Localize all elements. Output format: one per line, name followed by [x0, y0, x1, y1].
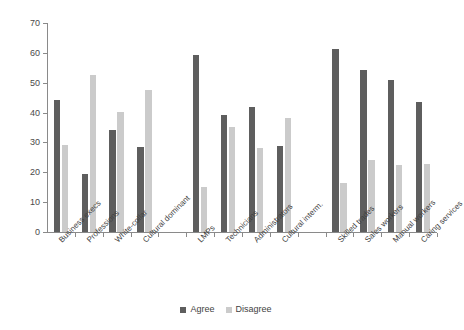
legend-label-agree: Agree [190, 305, 214, 314]
x-axis-tick [214, 233, 215, 237]
x-axis-tick [353, 233, 354, 237]
bar-disagree[interactable] [396, 165, 403, 232]
y-axis-tick-label: 30 [30, 138, 40, 147]
bar-disagree[interactable] [257, 148, 264, 232]
x-axis-tick [158, 233, 159, 237]
bar-agree[interactable] [54, 100, 61, 232]
x-axis-tick [131, 233, 132, 237]
disagree-swatch-icon [226, 307, 232, 313]
x-axis-tick [409, 233, 410, 237]
bar-disagree[interactable] [62, 145, 69, 232]
chart-legend: Agree Disagree [0, 305, 452, 314]
bar-agree[interactable] [193, 55, 200, 232]
x-axis-tick [270, 233, 271, 237]
legend-label-disagree: Disagree [236, 305, 272, 314]
x-axis-tick [298, 233, 299, 237]
y-axis-tick-label: 50 [30, 78, 40, 87]
plot-area [47, 23, 437, 232]
legend-item-disagree[interactable]: Disagree [226, 305, 272, 314]
y-axis-tick-label: 60 [30, 48, 40, 57]
x-axis-tick [186, 233, 187, 237]
y-axis-tick-label: 40 [30, 108, 40, 117]
x-axis-tick [437, 233, 438, 237]
y-axis: 010203040506070 [0, 23, 47, 232]
bar-agree[interactable] [332, 49, 339, 232]
legend-item-agree[interactable]: Agree [180, 305, 214, 314]
bar-disagree[interactable] [368, 160, 375, 232]
bar-disagree[interactable] [229, 127, 236, 232]
bar-disagree[interactable] [201, 187, 208, 232]
x-axis-tick [75, 233, 76, 237]
bar-agree[interactable] [221, 115, 228, 232]
x-axis-tick [103, 233, 104, 237]
y-axis-tick-label: 10 [30, 198, 40, 207]
x-axis-tick [381, 233, 382, 237]
bar-disagree[interactable] [340, 183, 347, 232]
x-axis-tick [326, 233, 327, 237]
y-axis-tick-label: 20 [30, 168, 40, 177]
y-axis-tick-label: 0 [35, 228, 40, 237]
y-axis-tick-label: 70 [30, 19, 40, 28]
agree-swatch-icon [180, 307, 186, 313]
x-axis-tick [242, 233, 243, 237]
